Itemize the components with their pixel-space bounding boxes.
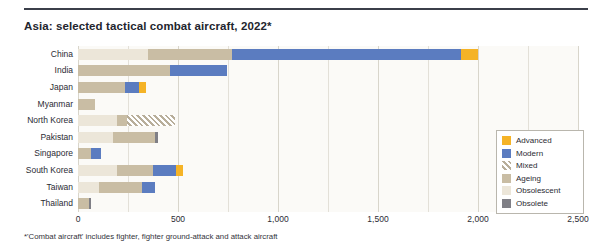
bar-segment-ageing <box>78 65 170 76</box>
page-title: Asia: selected tactical combat aircraft,… <box>24 20 272 32</box>
bar-segment-advanced <box>139 82 146 93</box>
bar-segment-ageing <box>117 115 127 126</box>
square-swatch-obsolescent <box>502 186 511 195</box>
bar-segment-ageing <box>78 99 95 110</box>
x-axis-tick-label: 1,000 <box>267 214 288 224</box>
y-axis-label: Singapore <box>0 148 73 158</box>
x-axis-tick-label: 0 <box>76 214 81 224</box>
square-swatch-modern <box>502 149 511 158</box>
bar-segment-modern <box>170 65 227 76</box>
bar-row <box>78 82 578 93</box>
bar-segment-obsolescent <box>78 115 117 126</box>
y-axis-label: Japan <box>0 82 73 92</box>
y-axis-label: South Korea <box>0 165 73 175</box>
x-axis-tick-label: 2,500 <box>567 214 588 224</box>
bar-row <box>78 65 578 76</box>
y-axis-label: Pakistan <box>0 132 73 142</box>
square-swatch-obsolete <box>502 199 511 208</box>
bar-row <box>78 49 578 60</box>
bar-segment-ageing <box>78 82 125 93</box>
bar-segment-ageing <box>113 132 155 143</box>
legend-item[interactable]: Modern <box>502 148 578 159</box>
bar-segment-modern <box>153 165 176 176</box>
legend: AdvancedModernMixedAgeingObsolescentObso… <box>496 130 584 214</box>
bar-segment-ageing <box>117 165 153 176</box>
bar-segment-obsolescent <box>78 132 113 143</box>
legend-item[interactable]: Ageing <box>502 173 578 184</box>
footnote: *'Combat aircraft' includes fighter, fig… <box>24 232 277 241</box>
y-axis-label: China <box>0 49 73 59</box>
y-axis-category-labels: ChinaIndiaJapanMyanmarNorth KoreaPakista… <box>0 46 73 212</box>
legend-label: Modern <box>516 149 543 158</box>
y-axis-label: India <box>0 65 73 75</box>
bar-segment-obsolescent <box>78 49 148 60</box>
bar-segment-obsolescent <box>78 165 117 176</box>
y-axis-label: North Korea <box>0 115 73 125</box>
legend-label: Mixed <box>516 161 537 170</box>
legend-item[interactable]: Obsolete <box>502 198 578 209</box>
bar-segment-mixed <box>127 115 175 126</box>
legend-label: Ageing <box>516 174 541 183</box>
title-rule <box>24 8 588 10</box>
bar-segment-ageing <box>99 182 142 193</box>
bar-segment-ageing <box>78 148 91 159</box>
y-axis-label: Taiwan <box>0 182 73 192</box>
legend-item[interactable]: Advanced <box>502 135 578 146</box>
x-axis-tick-label: 2,000 <box>467 214 488 224</box>
bar-row <box>78 115 578 126</box>
bar-segment-modern <box>125 82 139 93</box>
bar-segment-obsolete <box>89 198 91 209</box>
legend-item[interactable]: Mixed <box>502 160 578 171</box>
legend-label: Obsolescent <box>516 186 560 195</box>
legend-label: Obsolete <box>516 199 548 208</box>
y-axis-label: Myanmar <box>0 99 73 109</box>
chart-figure: Asia: selected tactical combat aircraft,… <box>0 0 612 251</box>
bar-segment-modern <box>232 49 461 60</box>
bar-segment-obsolete <box>155 132 158 143</box>
bar-segment-modern <box>142 182 155 193</box>
bar-segment-advanced <box>461 49 478 60</box>
hatched-swatch-mixed <box>502 161 511 170</box>
legend-item[interactable]: Obsolescent <box>502 185 578 196</box>
bar-segment-modern <box>91 148 101 159</box>
x-axis-tick-labels: 05001,0001,5002,0002,500 <box>0 214 612 228</box>
x-axis-tick-label: 1,500 <box>367 214 388 224</box>
bar-row <box>78 99 578 110</box>
bar-segment-obsolescent <box>78 182 99 193</box>
bar-segment-ageing <box>78 198 89 209</box>
bar-segment-ageing <box>148 49 232 60</box>
square-swatch-advanced <box>502 136 511 145</box>
x-axis-tick-label: 500 <box>171 214 185 224</box>
bar-segment-advanced <box>176 165 183 176</box>
square-swatch-ageing <box>502 174 511 183</box>
y-axis-label: Thailand <box>0 198 73 208</box>
legend-label: Advanced <box>516 136 552 145</box>
